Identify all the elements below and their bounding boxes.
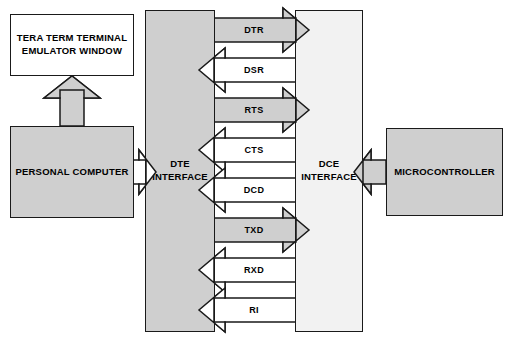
diagram-canvas: TERA TERM TERMINAL EMULATOR WINDOW PERSO… bbox=[0, 0, 508, 344]
signal-label-dsr: DSR bbox=[219, 65, 289, 75]
signal-label-cts: CTS bbox=[219, 145, 289, 155]
signal-label-rts: RTS bbox=[219, 105, 289, 115]
arrowhead-overlay bbox=[0, 0, 508, 344]
signal-label-txd: TXD bbox=[219, 225, 289, 235]
arrowhead-pc-to-terminal bbox=[44, 76, 100, 98]
signal-label-dcd: DCD bbox=[219, 185, 289, 195]
signal-label-dtr: DTR bbox=[219, 25, 289, 35]
signal-label-ri: RI bbox=[219, 305, 289, 315]
signal-label-rxd: RXD bbox=[219, 265, 289, 275]
arrowhead-mcu-to-dce bbox=[354, 150, 371, 194]
arrowhead-pc-to-dte bbox=[139, 150, 156, 194]
